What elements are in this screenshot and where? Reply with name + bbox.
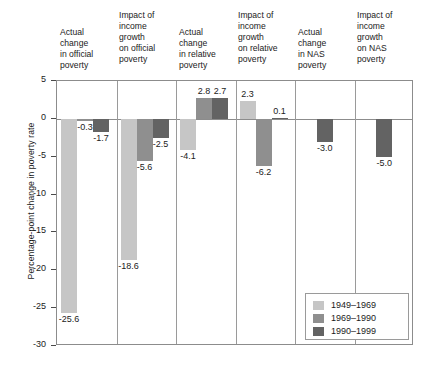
bar-value-label: -5.6 — [128, 162, 162, 172]
panel-header-line: poverty — [119, 54, 177, 65]
panel-header-line: growth — [357, 32, 415, 43]
bar — [272, 118, 288, 119]
y-tick-label: -15 — [0, 225, 46, 235]
bar — [61, 119, 77, 313]
panel-header-line: poverty — [60, 60, 118, 71]
panel-header-line: growth — [119, 32, 177, 43]
panel-header-line: poverty — [298, 60, 356, 71]
y-tick-label: -5 — [0, 150, 46, 160]
bar — [196, 98, 212, 119]
panel-header-4: Actualchangein NASpoverty — [298, 27, 356, 71]
bar — [317, 119, 333, 142]
bar — [240, 101, 256, 118]
legend-swatch-icon — [313, 327, 324, 336]
bar-value-label: -1.7 — [84, 133, 118, 143]
legend-label: 1990–1999 — [331, 325, 376, 338]
panel-header-line: Impact of — [238, 10, 296, 21]
panel-header-line: Impact of — [357, 10, 415, 21]
bar-value-label: -18.6 — [112, 261, 146, 271]
y-tick-label: 5 — [0, 74, 46, 84]
y-tick-mark — [51, 345, 56, 346]
panel-header-line: Impact of — [119, 10, 177, 21]
panel-header-line: in NAS — [298, 49, 356, 60]
bar — [212, 98, 228, 118]
panel-header-line: on relative — [238, 43, 296, 54]
panel-header-5: Impact ofincomegrowthon NASpoverty — [357, 10, 415, 65]
panel-header-line: change — [298, 38, 356, 49]
panel-header-line: poverty — [357, 54, 415, 65]
panel-header-3: Impact ofincomegrowthon relativepoverty — [238, 10, 296, 65]
bar-value-label: 2.3 — [231, 89, 265, 99]
panel-header-line: income — [238, 21, 296, 32]
bar — [153, 119, 169, 138]
bar-value-label: 0.1 — [263, 106, 297, 116]
y-tick-label: 0 — [0, 112, 46, 122]
panel-header-line: change — [60, 38, 118, 49]
panel-header-line: Actual — [179, 27, 237, 38]
zero-baseline — [57, 119, 412, 120]
bar — [376, 119, 392, 157]
y-tick-label: -30 — [0, 339, 46, 349]
panel-header-line: income — [119, 21, 177, 32]
panel-header-line: in relative — [179, 49, 237, 60]
poverty-change-bar-chart: Percentage-point change in poverty rate … — [0, 0, 425, 381]
panel-divider — [117, 81, 118, 344]
legend-item-1[interactable]: 1969–1990 — [313, 312, 408, 325]
y-tick-label: -25 — [0, 301, 46, 311]
panel-header-1: Impact ofincomegrowthon officialpoverty — [119, 10, 177, 65]
panel-header-line: change — [179, 38, 237, 49]
panel-header-line: income — [357, 21, 415, 32]
panel-header-line: Actual — [298, 27, 356, 38]
legend-swatch-icon — [313, 314, 324, 323]
legend-swatch-icon — [313, 301, 324, 310]
y-tick-label: -20 — [0, 263, 46, 273]
bar — [256, 119, 272, 166]
bar — [180, 119, 196, 150]
panel-divider — [176, 81, 177, 344]
bar-value-label: -25.6 — [52, 314, 86, 324]
legend: 1949–19691969–19901990–1999 — [305, 293, 409, 340]
panel-header-line: in official — [60, 49, 118, 60]
bar-value-label: -2.5 — [144, 139, 178, 149]
panel-header-line: Actual — [60, 27, 118, 38]
panel-divider — [236, 81, 237, 344]
panel-header-0: Actualchangein officialpoverty — [60, 27, 118, 71]
bar-value-label: -4.1 — [171, 151, 205, 161]
panel-header-2: Actualchangein relativepoverty — [179, 27, 237, 71]
panel-header-line: on NAS — [357, 43, 415, 54]
legend-label: 1949–1969 — [331, 299, 376, 312]
bar — [93, 119, 109, 132]
bar — [77, 119, 93, 121]
panel-header-line: poverty — [238, 54, 296, 65]
panel-header-line: poverty — [179, 60, 237, 71]
panel-header-line: on official — [119, 43, 177, 54]
legend-item-0[interactable]: 1949–1969 — [313, 299, 408, 312]
bar — [121, 119, 137, 260]
legend-item-2[interactable]: 1990–1999 — [313, 325, 408, 338]
panel-header-line: growth — [238, 32, 296, 43]
panel-divider — [295, 81, 296, 344]
y-tick-label: -10 — [0, 188, 46, 198]
bar-value-label: -5.0 — [367, 158, 401, 168]
bar-value-label: -6.2 — [247, 167, 281, 177]
bar-value-label: -3.0 — [308, 143, 342, 153]
legend-label: 1969–1990 — [331, 312, 376, 325]
